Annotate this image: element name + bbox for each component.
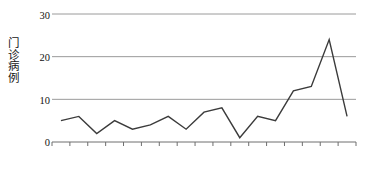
x-tick-label: 10-29	[204, 166, 214, 178]
x-tick-label: 11-6	[347, 166, 357, 178]
x-tick-label: 10-24	[115, 166, 125, 178]
x-tick-label: 10-27	[168, 166, 178, 178]
x-tick-label: 10-26	[150, 166, 160, 178]
y-tick-label-20: 20	[28, 53, 50, 64]
line-chart: 门 诊 病 例 30 20 10 0 10-2110-2210-2310-241…	[0, 0, 373, 178]
y-axis-tick-labels: 30 20 10 0	[22, 0, 50, 178]
x-axis-tick-labels: 10-2110-2210-2310-2410-2510-2610-2710-28…	[52, 142, 356, 178]
x-tick-label: 10-30	[222, 166, 232, 178]
data-line-series-1	[61, 40, 347, 138]
y-tick-label-10: 10	[28, 96, 50, 107]
x-tick-label: 10-23	[97, 166, 107, 178]
x-tick-label: 11-3	[293, 166, 303, 178]
x-tick-label: 10-25	[132, 166, 142, 178]
plot-area	[52, 14, 356, 142]
x-tick-label: 10-31	[240, 166, 250, 178]
y-tick-label-30: 30	[28, 11, 50, 22]
x-tick-label: 10-22	[79, 166, 89, 178]
x-tick-label: 11-5	[329, 166, 339, 178]
x-tick-label: 10-28	[186, 166, 196, 178]
x-tick-label: 10-21	[61, 166, 71, 178]
plot-svg	[52, 14, 356, 142]
x-tick-label: 11-4	[311, 166, 321, 178]
y-tick-label-0: 0	[28, 138, 50, 149]
x-tick-label: 11-1	[258, 166, 268, 178]
y-axis-title: 门 诊 病 例	[4, 38, 22, 85]
x-tick-label: 11-2	[276, 166, 286, 178]
y-axis-title-char: 例	[8, 73, 19, 85]
